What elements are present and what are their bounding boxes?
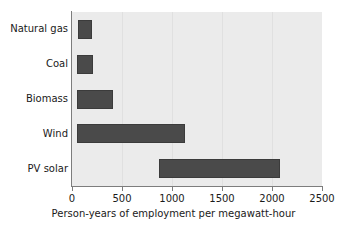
category-label-biomass: Biomass	[0, 93, 68, 105]
tick-mark	[322, 187, 323, 191]
category-label-wind: Wind	[0, 128, 68, 140]
y-axis-category-labels: Natural gasCoalBiomassWindPV solar	[0, 12, 68, 186]
bar-chart: Natural gasCoalBiomassWindPV solar 05001…	[0, 0, 347, 227]
bar-pv-solar	[159, 159, 280, 178]
tick-label-2000: 2000	[259, 193, 284, 204]
x-axis-title: Person-years of employment per megawatt-…	[0, 208, 347, 219]
tick-label-1000: 1000	[159, 193, 184, 204]
bar-biomass	[77, 90, 113, 109]
plot-area	[72, 12, 322, 186]
gridline	[122, 12, 123, 186]
category-label-pv-solar: PV solar	[0, 163, 68, 175]
tick-label-1500: 1500	[209, 193, 234, 204]
tick-label-2500: 2500	[309, 193, 334, 204]
x-axis-line	[71, 186, 323, 187]
category-label-coal: Coal	[0, 58, 68, 70]
tick-mark	[72, 187, 73, 191]
tick-mark	[272, 187, 273, 191]
tick-label-0: 0	[69, 193, 75, 204]
bar-wind	[77, 124, 185, 143]
bar-natural-gas	[78, 20, 92, 39]
tick-mark	[172, 187, 173, 191]
tick-mark	[122, 187, 123, 191]
y-axis-line	[71, 11, 72, 187]
bar-coal	[77, 55, 93, 74]
tick-label-500: 500	[112, 193, 131, 204]
tick-mark	[222, 187, 223, 191]
category-label-natural-gas: Natural gas	[0, 23, 68, 35]
